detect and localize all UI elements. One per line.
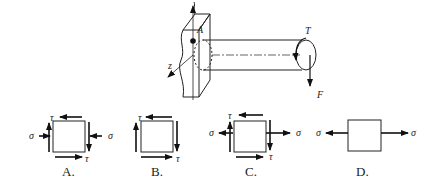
shaft-figure: z A T F xyxy=(167,2,324,100)
svg-text:σ: σ xyxy=(316,127,322,138)
force-label: F xyxy=(316,89,324,100)
svg-text:σ: σ xyxy=(296,127,302,138)
svg-text:σ: σ xyxy=(411,127,417,138)
svg-text:τ: τ xyxy=(269,151,273,162)
torque-arrow xyxy=(296,38,306,60)
option-a-label: A. xyxy=(62,164,75,179)
point-a-marker xyxy=(190,38,196,44)
option-b-element[interactable]: τ τ B. xyxy=(136,112,180,179)
svg-text:σ: σ xyxy=(209,127,215,138)
option-b-label: B. xyxy=(151,164,163,179)
option-d-element[interactable]: σ σ D. xyxy=(316,120,417,179)
option-d-label: D. xyxy=(356,164,369,179)
svg-text:σ: σ xyxy=(108,130,114,141)
svg-text:τ: τ xyxy=(176,153,180,164)
svg-text:τ: τ xyxy=(138,112,142,123)
point-a-label: A xyxy=(196,24,204,35)
torque-label: T xyxy=(305,25,312,36)
option-a-element[interactable]: τ τ σ σ A. xyxy=(29,112,114,179)
option-c-element[interactable]: τ τ σ σ C. xyxy=(209,110,302,179)
svg-text:σ: σ xyxy=(29,130,35,141)
z-axis-label: z xyxy=(167,60,172,71)
svg-text:τ: τ xyxy=(228,110,232,121)
option-c-label: C. xyxy=(245,164,257,179)
diagram-canvas: z A T F τ τ σ σ A. xyxy=(0,0,435,186)
wall-support xyxy=(180,2,210,97)
svg-text:τ: τ xyxy=(85,153,89,164)
svg-text:τ: τ xyxy=(50,112,54,123)
